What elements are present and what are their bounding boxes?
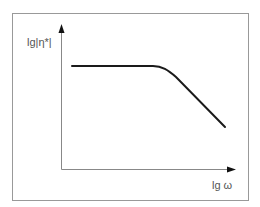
- diagram-svg: [0, 0, 260, 207]
- diagram-canvas: lg|η*| lg ω: [0, 0, 260, 207]
- y-axis-arrowhead-icon: [59, 24, 65, 33]
- x-axis-arrowhead-icon: [227, 167, 236, 173]
- x-axis-label: lg ω: [212, 180, 232, 191]
- y-axis-label: lg|η*|: [27, 37, 52, 48]
- viscosity-curve: [72, 66, 225, 127]
